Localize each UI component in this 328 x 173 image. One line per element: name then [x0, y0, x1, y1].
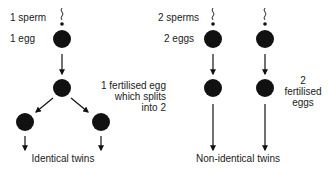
- sperm-head-icon: [60, 22, 64, 26]
- left-sperm-label: 1 sperm: [10, 12, 46, 23]
- left-fertilised-line3: into 2: [80, 102, 166, 113]
- identical-twins-caption: Identical twins: [20, 153, 106, 164]
- sperm-icon: [264, 8, 266, 20]
- arrow-split-left-icon: [36, 98, 53, 112]
- identical-twins-branch: [16, 8, 110, 150]
- fertilised-egg-icon: [53, 79, 71, 97]
- twin-embryo-right-icon: [92, 113, 110, 131]
- sperm-icon: [61, 8, 63, 20]
- right-fertilised-line2: fertilised: [278, 86, 328, 97]
- right-fertilised-line3: eggs: [278, 97, 328, 108]
- egg-icon: [204, 30, 222, 48]
- fertilised-egg-icon: [256, 79, 274, 97]
- sperm-icon: [212, 8, 214, 20]
- left-fertilised-line2: which splits: [80, 91, 166, 102]
- right-egg-label: 2 eggs: [164, 33, 194, 44]
- left-egg-label: 1 egg: [10, 33, 35, 44]
- sperm-head-icon: [263, 22, 267, 26]
- right-sperm-label: 2 sperms: [158, 12, 199, 23]
- twin-embryo-left-icon: [16, 113, 34, 131]
- non-identical-twins-caption: Non-identical twins: [188, 153, 288, 164]
- fertilised-egg-icon: [204, 79, 222, 97]
- egg-icon: [53, 30, 71, 48]
- egg-icon: [256, 30, 274, 48]
- sperm-head-icon: [211, 22, 215, 26]
- left-fertilised-line1: 1 fertilised egg: [80, 80, 166, 91]
- right-fertilised-line1: 2: [278, 75, 328, 86]
- left-fertilised-label: 1 fertilised egg which splits into 2: [80, 80, 166, 113]
- right-fertilised-label: 2 fertilised eggs: [278, 75, 328, 108]
- non-identical-twins-branch: [204, 8, 274, 150]
